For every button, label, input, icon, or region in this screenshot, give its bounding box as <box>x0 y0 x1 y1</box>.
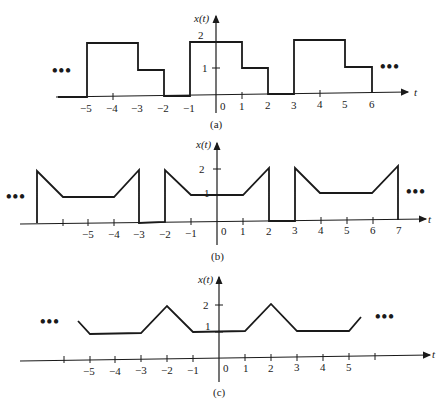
xtick-labels-c: −5 −4 −3 −2 −1 0 1 2 3 4 5 <box>83 361 352 377</box>
ellipsis-left-a: ••• <box>52 62 72 79</box>
svg-text:1: 1 <box>243 362 249 374</box>
svg-text:−5: −5 <box>82 228 94 240</box>
svg-text:2: 2 <box>265 99 271 111</box>
svg-text:−5: −5 <box>80 102 92 114</box>
svg-text:7: 7 <box>396 224 402 236</box>
ellipsis-left-c: ••• <box>40 313 60 330</box>
svg-text:5: 5 <box>342 98 348 110</box>
caption-c: (c) <box>213 386 226 399</box>
ytick-label-2-c: 2 <box>203 299 209 311</box>
svg-text:−1: −1 <box>183 102 195 114</box>
svg-text:−5: −5 <box>83 365 95 377</box>
ytick-label-2-a: 2 <box>198 29 204 41</box>
xlabel-a: t <box>414 86 418 98</box>
ytick-label-1-b: 1 <box>204 187 210 199</box>
svg-text:3: 3 <box>292 224 298 236</box>
svg-text:−3: −3 <box>131 102 143 114</box>
xtick-labels-a: −5 −4 −3 −2 −1 0 1 2 3 4 5 6 <box>80 98 375 114</box>
figure: x(t) 2 1 t −5 −4 −3 −2 −1 0 1 2 3 4 5 6 … <box>0 0 447 415</box>
svg-text:−4: −4 <box>108 228 120 240</box>
ellipsis-right-b: ••• <box>406 183 426 200</box>
svg-text:6: 6 <box>369 98 375 110</box>
svg-text:2: 2 <box>266 225 272 237</box>
ylabel-c: x(t) <box>197 273 214 286</box>
x-axis-c <box>20 355 430 361</box>
svg-text:−4: −4 <box>109 365 121 377</box>
svg-text:1: 1 <box>239 100 245 112</box>
svg-text:3: 3 <box>294 361 300 373</box>
caption-a: (a) <box>210 118 223 131</box>
caption-b: (b) <box>211 250 224 263</box>
svg-text:4: 4 <box>320 361 326 373</box>
svg-text:6: 6 <box>370 224 376 236</box>
svg-text:−2: −2 <box>159 228 171 240</box>
ytick-label-2-b: 2 <box>199 163 205 175</box>
x-axis-b <box>20 219 426 224</box>
svg-text:5: 5 <box>346 361 352 373</box>
svg-text:4: 4 <box>318 224 324 236</box>
ylabel-b: x(t) <box>195 138 212 151</box>
svg-text:−3: −3 <box>133 228 145 240</box>
svg-text:0: 0 <box>221 225 227 237</box>
svg-text:−3: −3 <box>135 364 147 376</box>
svg-text:1: 1 <box>240 225 246 237</box>
ylabel-a: x(t) <box>193 12 210 25</box>
svg-text:5: 5 <box>344 224 350 236</box>
ellipsis-right-a: ••• <box>380 58 400 75</box>
svg-text:2: 2 <box>268 362 274 374</box>
svg-text:−4: −4 <box>106 102 118 114</box>
svg-text:−1: −1 <box>185 227 197 239</box>
ellipsis-right-c: ••• <box>375 308 395 325</box>
panel-c: x(t) 2 1 t −5 −4 −3 −2 −1 0 1 2 3 4 5 ••… <box>20 273 436 399</box>
svg-text:−2: −2 <box>157 102 169 114</box>
xtick-labels-b: −5 −4 −3 −2 −1 0 1 2 3 4 5 6 7 <box>82 224 402 240</box>
panel-b: x(t) 2 1 t −5 −4 −3 −2 −1 0 1 2 3 4 5 6 … <box>6 138 432 263</box>
svg-text:4: 4 <box>317 98 323 110</box>
ytick-label-1-c: 1 <box>205 320 211 332</box>
svg-text:0: 0 <box>220 100 226 112</box>
xlabel-c: t <box>432 348 436 360</box>
svg-text:−2: −2 <box>161 364 173 376</box>
svg-text:0: 0 <box>223 362 229 374</box>
ellipsis-left-b: ••• <box>6 188 26 205</box>
svg-text:3: 3 <box>291 99 297 111</box>
svg-text:−1: −1 <box>187 364 199 376</box>
xlabel-b: t <box>428 213 432 225</box>
ytick-label-1-a: 1 <box>202 62 208 74</box>
panel-a: x(t) 2 1 t −5 −4 −3 −2 −1 0 1 2 3 4 5 6 … <box>52 12 418 131</box>
x-axis-a <box>56 92 408 97</box>
